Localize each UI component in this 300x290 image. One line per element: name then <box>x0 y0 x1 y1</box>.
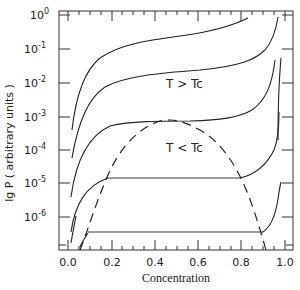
isotherm-4-right <box>240 112 279 178</box>
isotherm-5-right <box>263 182 281 232</box>
y-tick-labels: 100 10-1 10-2 10-3 10-4 10-5 10-6 <box>24 7 49 224</box>
y-axis-label: lg P ( arbitrary units ) <box>3 84 16 202</box>
x-tick-labels: 0.0 0.2 0.4 0.6 0.8 1.0 <box>59 256 294 269</box>
x-axis-label: Concentration <box>142 271 210 285</box>
y-tick-label: 10-1 <box>24 41 46 56</box>
x-ticks <box>68 11 285 250</box>
y-ticks <box>59 15 293 245</box>
isotherms <box>71 17 281 247</box>
isotherm-4 <box>71 178 108 232</box>
svg-text:0.6: 0.6 <box>189 256 207 269</box>
svg-text:0.0: 0.0 <box>59 256 77 269</box>
y-tick-label: 10-6 <box>24 209 46 224</box>
y-tick-label: 10-2 <box>24 75 46 90</box>
y-tick-label: 100 <box>30 7 49 22</box>
plot-frame <box>59 11 293 250</box>
annotation-below-tc: T < Tc <box>165 141 203 155</box>
y-tick-label: 10-4 <box>24 142 46 157</box>
svg-text:1.0: 1.0 <box>276 256 294 269</box>
svg-text:0.8: 0.8 <box>232 256 250 269</box>
coexistence-curve <box>80 120 266 250</box>
isotherm-5-left <box>80 233 88 247</box>
svg-text:0.4: 0.4 <box>146 256 164 269</box>
annotation-above-tc: T > Tc <box>165 77 203 91</box>
chart: 100 10-1 10-2 10-3 10-4 10-5 10-6 0.0 0.… <box>0 0 300 290</box>
y-tick-label: 10-3 <box>24 109 46 124</box>
y-tick-label: 10-5 <box>24 175 46 190</box>
svg-text:0.2: 0.2 <box>103 256 121 269</box>
